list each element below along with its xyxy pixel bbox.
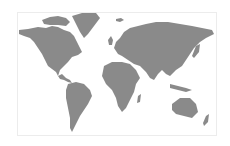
north-america <box>19 26 82 76</box>
arctic-islands <box>42 16 70 26</box>
south-america <box>66 82 92 132</box>
uk <box>108 36 113 45</box>
africa <box>102 62 140 112</box>
greenland <box>72 13 100 38</box>
world-map <box>0 0 230 146</box>
australia <box>172 98 198 118</box>
indonesia <box>170 84 192 92</box>
central-america <box>58 74 72 83</box>
new-zealand <box>203 114 209 126</box>
iceland <box>116 18 124 22</box>
madagascar <box>137 94 141 103</box>
